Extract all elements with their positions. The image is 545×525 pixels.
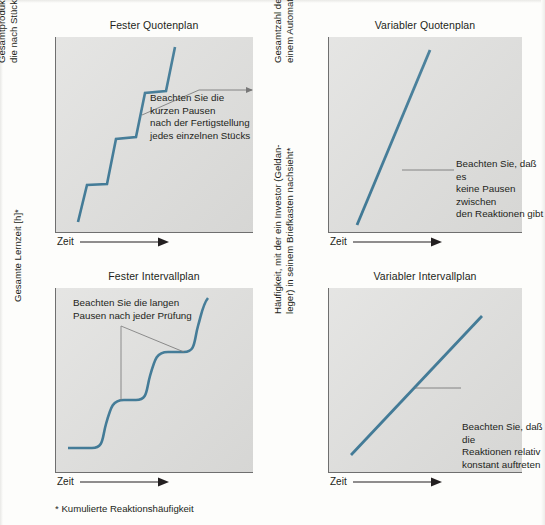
scan-edge-left	[0, 0, 3, 525]
y-axis-label-line1: Häufigkeit, mit der ein Investor (Geldan…	[272, 144, 283, 314]
annotation-note: Beachten Sie die langen Pausen nach jede…	[73, 297, 203, 322]
figure-footnote: * Kumulierte Reaktionshäufigkeit	[55, 503, 194, 514]
y-axis-label: Gesamte Lernzeit [h]*	[12, 112, 26, 302]
x-axis-arrow-icon	[353, 237, 443, 247]
annotation-note: Beachten Sie, daß es keine Pausen zwisch…	[456, 158, 545, 221]
y-axis-label-line1: Gesamtzahl der Spiele an	[272, 0, 283, 63]
y-axis-label: Häufigkeit, mit der ein Investor (Geldan…	[272, 128, 298, 314]
x-axis-label: Zeit	[330, 476, 347, 487]
figure-reinforcement-schedules: Fester Quotenplan Gesamtproduktion von A…	[0, 0, 545, 525]
x-axis-arrow-icon	[353, 477, 443, 487]
y-axis-label-line2: einem Automaten*	[284, 0, 295, 63]
y-axis-label-line2: leger) in seinem Briefkasten nachsieht*	[284, 148, 295, 314]
annotation-leader-line	[121, 326, 184, 400]
y-axis-label-line1: Gesamte Lernzeit [h]*	[12, 209, 23, 302]
data-line-steep	[357, 50, 430, 225]
panel-title: Variabler Intervallplan	[328, 270, 522, 282]
y-axis-label-line1: Gesamtproduktion von Arbeitern,	[0, 0, 7, 63]
y-axis-label: Gesamtproduktion von Arbeitern, die nach…	[0, 0, 22, 63]
annotation-note: Beachten Sie, daß die Reaktionen relativ…	[462, 421, 545, 471]
x-axis: Zeit	[57, 236, 170, 247]
panel-title: Fester Intervallplan	[55, 270, 253, 282]
annotation-note: Beachten Sie die kurzen Pausen nach der …	[150, 92, 258, 142]
x-axis-arrow-icon	[80, 477, 170, 487]
y-axis-label: Gesamtzahl der Spiele an einem Automaten…	[272, 0, 298, 63]
y-axis-label-line2: die nach Stückzahl bezahlt werden*	[8, 0, 19, 63]
x-axis-label: Zeit	[57, 476, 74, 487]
panel-title: Fester Quotenplan	[55, 19, 253, 31]
panel-title: Variabler Quotenplan	[328, 19, 522, 31]
x-axis-arrow-icon	[80, 237, 170, 247]
x-axis: Zeit	[330, 476, 443, 487]
x-axis-label: Zeit	[57, 236, 74, 247]
x-axis: Zeit	[330, 236, 443, 247]
x-axis: Zeit	[57, 476, 170, 487]
x-axis-label: Zeit	[330, 236, 347, 247]
